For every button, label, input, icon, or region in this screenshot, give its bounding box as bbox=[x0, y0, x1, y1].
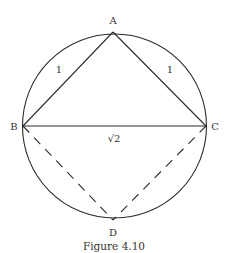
point-label-c: C bbox=[211, 121, 219, 132]
geometry-figure: A B C D 1 1 √2 Figure 4.10 bbox=[0, 0, 230, 253]
point-label-d: D bbox=[109, 227, 117, 238]
figure-caption: Figure 4.10 bbox=[83, 240, 145, 252]
edge-label-ac: 1 bbox=[167, 64, 173, 75]
edge-label-bc: √2 bbox=[108, 133, 121, 144]
point-label-a: A bbox=[108, 15, 117, 26]
edge-label-ab: 1 bbox=[56, 64, 62, 75]
point-label-b: B bbox=[10, 121, 17, 132]
